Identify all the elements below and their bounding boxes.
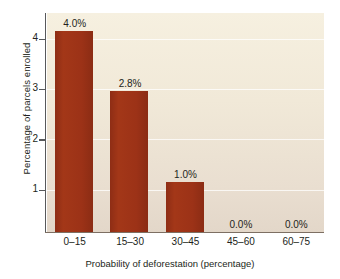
x-tick-label-2: 30–45 <box>158 236 213 247</box>
bar-value-1: 2.8% <box>102 78 157 89</box>
bar-2[interactable] <box>166 182 204 232</box>
bar-value-2: 1.0% <box>158 169 213 180</box>
bar-0[interactable] <box>55 31 93 232</box>
bar-value-0: 4.0% <box>47 18 102 29</box>
y-tick-mark-2 <box>39 139 45 140</box>
bar-value-4: 0.0% <box>269 219 324 230</box>
x-axis-title: Probability of deforestation (percentage… <box>0 258 340 269</box>
y-tick-mark-4 <box>39 39 45 40</box>
y-tick-label-2: 2 <box>0 133 38 144</box>
y-tick-label-4: 4 <box>0 32 38 43</box>
x-tick-label-0: 0–15 <box>47 236 102 247</box>
bar-slot-1: 2.8% <box>102 13 157 232</box>
x-tick-label-1: 15–30 <box>102 236 157 247</box>
plot-area: 4.0% 2.8% 1.0% 0.0% 0.0% <box>47 13 324 232</box>
x-tick-label-4: 60–75 <box>269 236 324 247</box>
bar-chart-figure: Percentage of parcels enrolled 1 2 3 4 4… <box>0 0 340 279</box>
x-tick-label-3: 45–60 <box>213 236 268 247</box>
y-tick-mark-3 <box>39 89 45 90</box>
bar-1[interactable] <box>110 91 148 232</box>
x-axis-line <box>45 232 324 233</box>
bar-slot-4: 0.0% <box>269 13 324 232</box>
y-tick-label-1: 1 <box>0 183 38 194</box>
y-tick-mark-1 <box>39 190 45 191</box>
y-tick-label-3: 3 <box>0 82 38 93</box>
bar-value-3: 0.0% <box>213 219 268 230</box>
bar-slot-2: 1.0% <box>158 13 213 232</box>
bar-slot-0: 4.0% <box>47 13 102 232</box>
bar-slot-3: 0.0% <box>213 13 268 232</box>
